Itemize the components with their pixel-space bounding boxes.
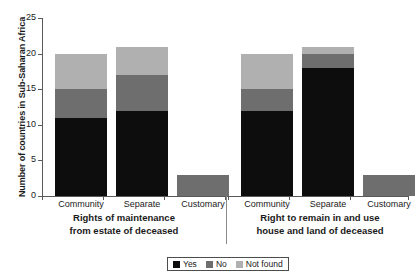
y-tick-label-5: 5 xyxy=(14,154,36,164)
bar-segment-no xyxy=(177,175,229,196)
bar-5-customary xyxy=(363,175,415,196)
group-title-maintenance-line1: Rights of maintenance xyxy=(26,212,222,225)
bar-segment-not-found xyxy=(302,47,354,54)
legend-label-not-found: Not found xyxy=(246,260,283,269)
group-title-residence-line2: house and land of deceased xyxy=(230,225,410,238)
bar-segment-yes xyxy=(302,68,354,196)
bar-segment-no xyxy=(116,75,168,111)
bar-segment-not-found xyxy=(241,54,293,90)
category-label-5-customary: Customary xyxy=(352,198,419,210)
y-tick-10: 10 xyxy=(42,125,43,126)
y-tick-label-25: 25 xyxy=(14,12,36,22)
group-separator xyxy=(226,196,227,244)
bar-segment-no xyxy=(241,89,293,110)
x-tick-mark-0 xyxy=(42,196,43,200)
bar-segment-no xyxy=(302,54,354,68)
bar-segment-yes xyxy=(116,111,168,196)
legend-item-yes[interactable]: Yes xyxy=(173,260,197,269)
legend-swatch-no-icon xyxy=(206,261,213,268)
plot-area: 0510152025 xyxy=(42,18,408,196)
legend-item-not-found[interactable]: Not found xyxy=(236,260,283,269)
y-tick-5: 5 xyxy=(42,160,43,161)
bar-0-community xyxy=(55,54,107,196)
y-tick-label-20: 20 xyxy=(14,48,36,58)
y-tick-15: 15 xyxy=(42,89,43,90)
y-tick-25: 25 xyxy=(42,18,43,19)
legend-label-yes: Yes xyxy=(183,260,197,269)
category-label-2-customary: Customary xyxy=(166,198,240,210)
legend-swatch-not-found-icon xyxy=(236,261,243,268)
bar-2-customary xyxy=(177,175,229,196)
legend-label-no: No xyxy=(216,260,227,269)
group-title-maintenance: Rights of maintenance from estate of dec… xyxy=(26,212,222,237)
y-tick-mark-15 xyxy=(38,89,42,90)
bar-segment-yes xyxy=(241,111,293,196)
y-tick-20: 20 xyxy=(42,54,43,55)
y-tick-label-0: 0 xyxy=(14,190,36,200)
bar-segment-not-found xyxy=(116,47,168,75)
y-tick-label-15: 15 xyxy=(14,83,36,93)
y-tick-mark-20 xyxy=(38,54,42,55)
bar-3-community xyxy=(241,54,293,196)
bar-4-separate xyxy=(302,46,354,196)
chart-legend: YesNoNot found xyxy=(167,257,289,271)
y-tick-mark-10 xyxy=(38,125,42,126)
legend-item-no[interactable]: No xyxy=(206,260,227,269)
bar-segment-yes xyxy=(55,118,107,196)
group-title-maintenance-line2: from estate of deceased xyxy=(26,225,222,238)
y-axis-line xyxy=(42,18,43,197)
y-tick-label-10: 10 xyxy=(14,119,36,129)
bar-segment-no xyxy=(55,89,107,117)
group-title-residence-line1: Right to remain in and use xyxy=(230,212,410,225)
group-title-residence: Right to remain in and use house and lan… xyxy=(230,212,410,237)
legend-swatch-yes-icon xyxy=(173,261,180,268)
bar-1-separate xyxy=(116,46,168,196)
y-tick-mark-5 xyxy=(38,160,42,161)
bar-segment-no xyxy=(363,175,415,196)
y-axis-title: Number of countries in Sub-Saharan Afric… xyxy=(15,9,29,205)
bar-segment-not-found xyxy=(55,54,107,90)
y-tick-mark-25 xyxy=(38,18,42,19)
